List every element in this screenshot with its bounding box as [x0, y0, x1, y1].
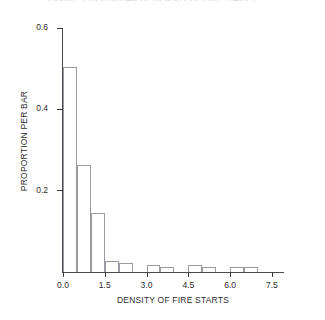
x-tick-mark	[188, 272, 189, 277]
histogram-bar	[77, 165, 91, 272]
histogram-bar	[63, 67, 77, 272]
x-tick-mark	[230, 272, 231, 277]
x-tick-label: 0.0	[48, 280, 78, 290]
x-tick-mark	[147, 272, 148, 277]
plot-area	[63, 28, 283, 272]
x-tick-mark	[105, 272, 106, 277]
y-axis-title: PROPORTION PER BAR	[19, 71, 29, 211]
x-tick-label: 6.0	[215, 280, 245, 290]
histogram-bar	[105, 261, 119, 272]
histogram-bar	[244, 267, 258, 272]
histogram-bar	[188, 265, 202, 272]
histogram-bar	[160, 267, 174, 272]
x-tick-label: 7.5	[257, 280, 287, 290]
x-tick-label: 1.5	[90, 280, 120, 290]
histogram-bar	[119, 263, 133, 272]
histogram-bar	[230, 267, 244, 272]
histogram-figure: FIGURE 3. HISTOGRAM OF DENSITY OF FIRE S…	[0, 0, 325, 320]
histogram-bar	[147, 265, 161, 272]
y-tick-label: 0.6	[22, 22, 48, 32]
x-axis-line	[62, 272, 284, 273]
x-tick-label: 4.5	[173, 280, 203, 290]
x-tick-mark	[63, 272, 64, 277]
histogram-bar	[202, 267, 216, 272]
histogram-bar	[91, 213, 105, 272]
chart-title: FIGURE 3. HISTOGRAM OF DENSITY OF FIRE S…	[48, 0, 288, 1]
x-tick-mark	[272, 272, 273, 277]
x-tick-label: 3.0	[132, 280, 162, 290]
x-axis-title: DENSITY OF FIRE STARTS	[62, 295, 284, 305]
